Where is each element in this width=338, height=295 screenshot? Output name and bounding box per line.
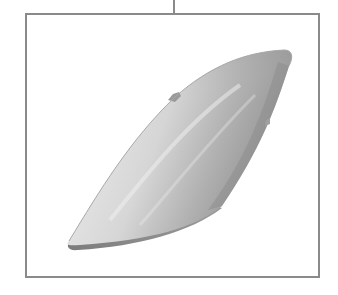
lens-cover-illustration bbox=[0, 0, 338, 295]
